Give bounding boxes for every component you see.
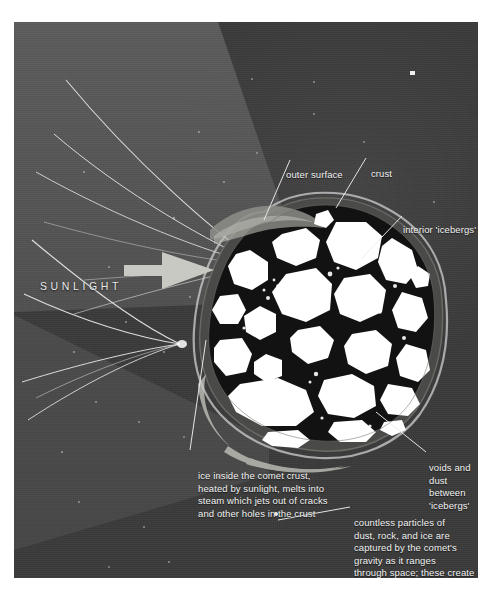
voids-and-dust-label: voids and dust between 'icebergs' <box>429 462 478 512</box>
outer-surface-label: outer surface <box>286 169 343 182</box>
crust-label: crust <box>371 168 392 181</box>
comet-illustration-plate: SUNLIGHT outer surface crust interior 'i… <box>14 22 478 578</box>
countless-particles-label: countless particles of dust, rock, and i… <box>354 517 474 578</box>
interior-icebergs-label: interior 'icebergs' <box>403 224 476 237</box>
ice-inside-crust-label: ice inside the comet crust, heated by su… <box>198 470 328 520</box>
star-speck-icon <box>410 71 415 75</box>
figure-page: SUNLIGHT outer surface crust interior 'i… <box>0 0 494 601</box>
sunlight-label: SUNLIGHT <box>40 280 122 293</box>
